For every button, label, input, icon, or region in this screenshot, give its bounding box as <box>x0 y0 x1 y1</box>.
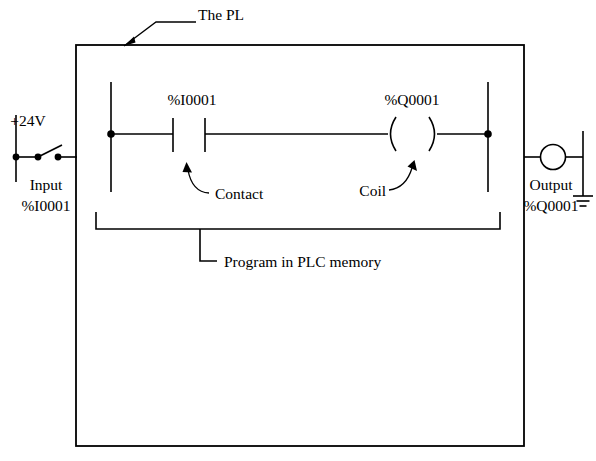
coil-symbol <box>391 117 435 151</box>
contact-symbol <box>173 118 205 152</box>
supply-junction-dot <box>13 154 20 161</box>
coil-address-label: %Q0001 <box>384 91 439 108</box>
switch-contact-dot <box>55 154 62 161</box>
rung-left-junction-dot <box>107 130 115 138</box>
coil-arc-left <box>391 117 397 151</box>
coil-annotation-arrow <box>389 160 417 190</box>
coil-annotation-label: Coil <box>359 182 386 199</box>
input-name-label: Input <box>30 176 63 193</box>
output-lamp-icon <box>541 145 566 170</box>
input-address-label: %I0001 <box>21 197 70 214</box>
bracket-path <box>96 212 500 229</box>
diagram-canvas: The PL +24V Input %I0001 %I0001 Contact … <box>0 0 596 461</box>
contact-address-label: %I0001 <box>167 91 216 108</box>
rung-right-junction-dot <box>484 130 492 138</box>
contact-annotation-label: Contact <box>215 185 264 202</box>
bracket-leader-line <box>200 229 217 261</box>
output-circuit <box>524 131 593 206</box>
supply-voltage-label: +24V <box>10 112 46 129</box>
output-address-label: %Q0001 <box>523 197 578 214</box>
plc-enclosure-label: The PL <box>198 6 244 23</box>
contact-annotation-arrow <box>183 162 210 193</box>
switch-pivot-dot <box>35 154 42 161</box>
output-name-label: Output <box>529 176 573 193</box>
plc-pointer-arrow <box>124 22 196 46</box>
coil-arc-right <box>429 117 435 151</box>
plc-enclosure-box <box>76 45 524 446</box>
plc-ladder-diagram: The PL +24V Input %I0001 %I0001 Contact … <box>0 0 596 461</box>
program-annotation-label: Program in PLC memory <box>224 253 381 270</box>
